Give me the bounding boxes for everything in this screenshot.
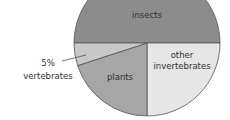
- label-insects: insects: [132, 10, 162, 20]
- slice-insects: [74, 0, 220, 43]
- label-plants: plants: [107, 72, 134, 82]
- label-vert-pct: 5%: [41, 58, 55, 68]
- label-other-1: other: [171, 50, 194, 60]
- label-other-2: invertebrates: [153, 61, 211, 71]
- pie-chart: insects other invertebrates plants 5% ve…: [0, 0, 230, 120]
- label-vert-name: vertebrates: [23, 71, 73, 81]
